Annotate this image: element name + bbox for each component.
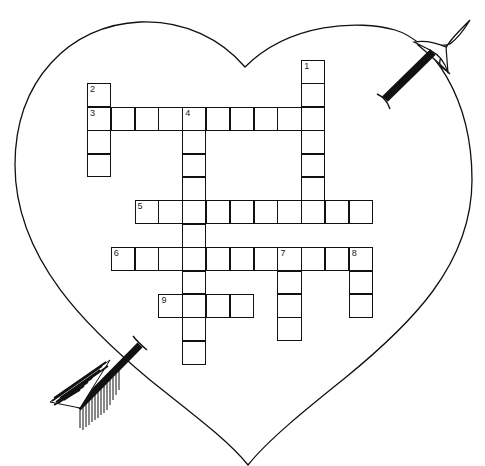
crossword-cell[interactable] (206, 247, 230, 271)
clue-number: 6 (114, 248, 119, 258)
crossword-cell[interactable] (277, 294, 301, 318)
crossword-cell[interactable] (182, 271, 206, 295)
crossword-cell[interactable] (158, 247, 182, 271)
crossword-cell[interactable] (158, 107, 182, 131)
crossword-cell[interactable] (349, 271, 373, 295)
crossword-cell[interactable] (301, 107, 325, 131)
clue-number: 1 (304, 61, 309, 71)
crossword-cell[interactable] (325, 200, 349, 224)
crossword-cell[interactable] (254, 107, 278, 131)
clue-number: 9 (161, 295, 166, 305)
crossword-cell[interactable] (182, 224, 206, 248)
crossword-cell[interactable] (277, 317, 301, 341)
crossword-cell[interactable]: 2 (87, 83, 111, 107)
crossword-cell[interactable] (135, 247, 159, 271)
crossword-cell[interactable] (254, 200, 278, 224)
crossword-cell[interactable] (206, 107, 230, 131)
crossword-cell[interactable] (206, 294, 230, 318)
crossword-cell[interactable] (254, 247, 278, 271)
crossword-cell[interactable]: 9 (158, 294, 182, 318)
crossword-cell[interactable] (158, 200, 182, 224)
clue-number: 7 (280, 248, 285, 258)
clue-number: 3 (90, 108, 95, 118)
crossword-cell[interactable] (182, 294, 206, 318)
clue-number: 8 (352, 248, 357, 258)
crossword-cell[interactable] (349, 200, 373, 224)
crossword-grid: 123456789 (0, 0, 485, 466)
crossword-cell[interactable] (135, 107, 159, 131)
crossword-cell[interactable] (182, 247, 206, 271)
crossword-cell[interactable]: 7 (277, 247, 301, 271)
crossword-cell[interactable] (182, 154, 206, 178)
crossword-cell[interactable] (301, 130, 325, 154)
crossword-cell[interactable] (301, 177, 325, 201)
crossword-cell[interactable] (230, 200, 254, 224)
crossword-cell[interactable] (182, 341, 206, 365)
crossword-cell[interactable] (111, 107, 135, 131)
crossword-cell[interactable] (230, 107, 254, 131)
crossword-cell[interactable] (182, 317, 206, 341)
crossword-cell[interactable] (349, 294, 373, 318)
crossword-cell[interactable]: 4 (182, 107, 206, 131)
crossword-cell[interactable] (325, 247, 349, 271)
crossword-cell[interactable] (230, 294, 254, 318)
crossword-cell[interactable] (182, 177, 206, 201)
crossword-cell[interactable] (182, 200, 206, 224)
crossword-cell[interactable] (277, 107, 301, 131)
crossword-cell[interactable]: 1 (301, 60, 325, 84)
crossword-cell[interactable] (230, 247, 254, 271)
crossword-cell[interactable] (301, 247, 325, 271)
crossword-cell[interactable] (277, 200, 301, 224)
crossword-cell[interactable] (87, 154, 111, 178)
crossword-cell[interactable]: 6 (111, 247, 135, 271)
crossword-cell[interactable]: 5 (135, 200, 159, 224)
clue-number: 2 (90, 84, 95, 94)
crossword-cell[interactable] (277, 271, 301, 295)
crossword-cell[interactable] (206, 200, 230, 224)
crossword-cell[interactable]: 3 (87, 107, 111, 131)
crossword-cell[interactable] (182, 130, 206, 154)
crossword-cell[interactable] (301, 154, 325, 178)
clue-number: 5 (138, 201, 143, 211)
crossword-cell[interactable] (301, 200, 325, 224)
crossword-cell[interactable] (301, 83, 325, 107)
crossword-cell[interactable]: 8 (349, 247, 373, 271)
clue-number: 4 (185, 108, 190, 118)
crossword-cell[interactable] (87, 130, 111, 154)
